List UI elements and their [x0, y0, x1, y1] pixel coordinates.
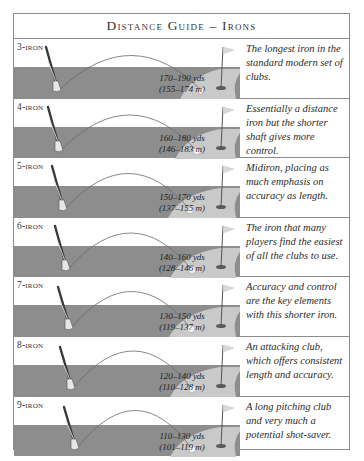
distance-yards: 170–190 yds [147, 73, 217, 84]
iron-row: 150–170 yds (137–155 m) 5-iron Midiron, … [14, 158, 349, 218]
club-description: Midiron, placing as much emphasis on acc… [246, 161, 348, 203]
flag-pin-icon [223, 345, 234, 352]
golf-club-icon [48, 107, 63, 152]
distance-label: 120–140 yds (110–128 m) [147, 371, 217, 393]
distance-label: 170–190 yds (155–174 m) [147, 73, 217, 95]
page-title: Distance Guide – Irons [14, 14, 349, 39]
golf-club-icon [60, 347, 75, 390]
club-name: 8-iron [17, 340, 43, 350]
flag-pin-icon [223, 226, 234, 233]
distance-yards: 110–130 yds [147, 431, 217, 442]
distance-meters: (128–146 m) [147, 263, 217, 274]
club-description: A long pitching club and very much a pot… [246, 400, 348, 442]
club-name: 5-iron [17, 161, 43, 171]
golf-club-icon [64, 407, 79, 450]
shot-illustration: 150–170 yds (137–155 m) [14, 158, 240, 217]
distance-meters: (119–137 m) [147, 322, 217, 333]
iron-row: 160–180 yds (146–183 m) 4-iron Essential… [14, 99, 349, 159]
distance-yards: 150–170 yds [147, 192, 217, 203]
distance-meters: (137–155 m) [147, 203, 217, 214]
distance-label: 150–170 yds (137–155 m) [147, 192, 217, 214]
distance-meters: (155–174 m) [147, 84, 217, 95]
shot-illustration: 160–180 yds (146–183 m) [14, 99, 240, 158]
club-name: 4-iron [17, 102, 43, 112]
distance-guide-table: Distance Guide – Irons 170–190 yds (155– [13, 13, 350, 450]
distance-label: 140–160 yds (128–146 m) [147, 252, 217, 274]
club-name: 6-iron [17, 221, 43, 231]
club-description: An attacking club, which offers consiste… [246, 340, 348, 382]
golf-club-icon [55, 226, 70, 271]
flag-pin-icon [223, 405, 234, 412]
club-name: 7-iron [17, 280, 43, 290]
iron-row: 120–140 yds (110–128 m) 8-iron An attack… [14, 337, 349, 397]
distance-meters: (101–119 m) [147, 442, 217, 453]
distance-meters: (110–128 m) [147, 382, 217, 393]
distance-label: 110–130 yds (101–119 m) [147, 431, 217, 453]
distance-meters: (146–183 m) [147, 144, 217, 155]
flag-pin-icon [223, 285, 234, 292]
club-description: Essentially a distance iron but the shor… [246, 102, 348, 158]
distance-yards: 160–180 yds [147, 133, 217, 144]
club-name: 9-iron [17, 400, 43, 410]
flag-pin-icon [223, 166, 234, 173]
iron-row: 140–160 yds (128–146 m) 6-iron The iron … [14, 218, 349, 278]
distance-label: 130–150 yds (119–137 m) [147, 311, 217, 333]
distance-yards: 140–160 yds [147, 252, 217, 263]
shot-illustration: 140–160 yds (128–146 m) [14, 218, 240, 277]
shot-illustration: 120–140 yds (110–128 m) [14, 337, 240, 396]
golf-club-icon [52, 166, 67, 211]
distance-yards: 120–140 yds [147, 371, 217, 382]
club-description: Accuracy and control are the key element… [246, 280, 348, 322]
flag-pin-icon [223, 47, 234, 54]
iron-row: 130–150 yds (119–137 m) 7-iron Accuracy … [14, 277, 349, 337]
golf-club-icon [58, 287, 73, 330]
club-name: 3-iron [17, 42, 43, 52]
golf-club-icon [46, 47, 61, 92]
club-description: The iron that many players find the easi… [246, 221, 348, 263]
shot-illustration: 130–150 yds (119–137 m) [14, 277, 240, 336]
distance-yards: 130–150 yds [147, 311, 217, 322]
shot-illustration: 170–190 yds (155–174 m) [14, 39, 240, 98]
distance-label: 160–180 yds (146–183 m) [147, 133, 217, 155]
iron-rows: 170–190 yds (155–174 m) 3-iron The longe… [14, 39, 349, 456]
shot-illustration: 110–130 yds (101–119 m) [14, 397, 240, 457]
iron-row: 110–130 yds (101–119 m) 9-iron A long pi… [14, 397, 349, 457]
club-description: The longest iron in the standard modern … [246, 42, 348, 84]
flag-pin-icon [223, 107, 234, 114]
iron-row: 170–190 yds (155–174 m) 3-iron The longe… [14, 39, 349, 99]
